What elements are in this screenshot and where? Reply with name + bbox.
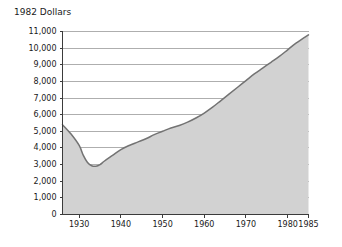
- y-tick-label: 10,000: [29, 44, 57, 53]
- y-tick-label: 3,000: [34, 160, 57, 169]
- y-tick-label: 9,000: [34, 60, 57, 69]
- y-tick-labels-group: 01,0002,0003,0004,0005,0006,0007,0008,00…: [29, 27, 57, 219]
- chart-container: 1982 Dollars 01,0002,0003,0004,0005,0006…: [0, 0, 342, 247]
- y-tick-label: 0: [51, 210, 56, 219]
- y-tick-label: 5,000: [34, 127, 57, 136]
- x-tick-label: 1980: [277, 220, 297, 229]
- y-tick-label: 1,000: [34, 193, 57, 202]
- area-chart-plot: 01,0002,0003,0004,0005,0006,0007,0008,00…: [0, 0, 342, 247]
- x-tick-label: 1960: [194, 220, 214, 229]
- y-tick-label: 11,000: [29, 27, 57, 36]
- y-tick-label: 6,000: [34, 110, 57, 119]
- x-tick-labels-group: 1930194019501960197019801985: [69, 220, 319, 229]
- x-tick-label: 1950: [152, 220, 172, 229]
- x-tick-label: 1970: [236, 220, 256, 229]
- y-tick-label: 2,000: [34, 177, 57, 186]
- x-tick-label: 1985: [298, 220, 318, 229]
- x-tick-label: 1930: [69, 220, 89, 229]
- series-group: [63, 35, 309, 215]
- y-tick-label: 7,000: [34, 94, 57, 103]
- x-tick-label: 1940: [111, 220, 131, 229]
- y-tick-label: 4,000: [34, 143, 57, 152]
- y-tick-label: 8,000: [34, 77, 57, 86]
